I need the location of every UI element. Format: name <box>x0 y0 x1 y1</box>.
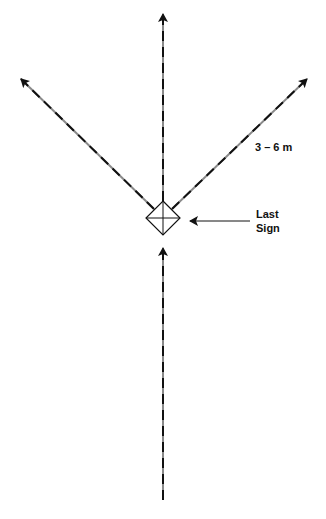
last-sign-label-line1: Last <box>256 208 279 221</box>
distance-label: 3 – 6 m <box>255 141 292 154</box>
search-pattern-diagram <box>0 0 326 519</box>
left-path <box>21 79 154 209</box>
last-sign-label-line2: Sign <box>256 222 280 235</box>
